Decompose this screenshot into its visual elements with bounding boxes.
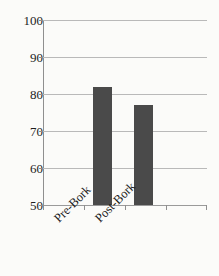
y-tick-label-100: 100 [9, 14, 43, 27]
x-tick-mark-4 [206, 205, 207, 210]
gridline-80 [43, 94, 207, 95]
y-tick-label-80: 80 [9, 88, 43, 101]
y-tick-label-60: 60 [9, 162, 43, 175]
plot-area [43, 20, 207, 205]
x-tick-mark-2 [125, 205, 126, 210]
y-tick-label-90: 90 [9, 51, 43, 64]
y-tick-label-50: 50 [9, 199, 43, 212]
gridline-60 [43, 168, 207, 169]
bar-pre-bork [93, 87, 112, 205]
x-tick-mark-0 [43, 205, 44, 210]
gridline-70 [43, 131, 207, 132]
bar-chart: 100 90 80 70 60 50 Pre-Bork Post-Bork [0, 0, 219, 276]
gridline-90 [43, 57, 207, 58]
x-tick-mark-3 [166, 205, 167, 210]
gridline-100 [43, 20, 207, 21]
x-tick-mark-1 [84, 205, 85, 210]
y-axis-ticks: 100 90 80 70 60 50 [0, 0, 43, 276]
y-tick-label-70: 70 [9, 125, 43, 138]
